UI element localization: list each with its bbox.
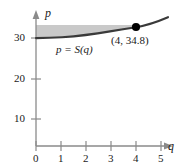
y-tick-label-20: 20	[14, 73, 25, 84]
supply-curve-equation-label: p = S(q)	[56, 44, 93, 55]
x-axis-label: q	[168, 140, 174, 152]
x-tick-label-4: 4	[133, 153, 139, 164]
y-tick-label-10: 10	[14, 113, 25, 124]
x-tick-label-0: 0	[33, 153, 39, 164]
x-tick-label-2: 2	[83, 153, 89, 164]
chart-canvas	[0, 0, 177, 168]
x-tick-label-5: 5	[158, 153, 164, 164]
y-axis-label: p	[45, 7, 51, 19]
x-tick-label-3: 3	[108, 153, 114, 164]
equilibrium-point-label: (4, 34.8)	[111, 35, 149, 46]
equilibrium-point-marker	[132, 23, 140, 31]
y-axis-arrowhead	[33, 10, 40, 19]
supply-curve-figure: p q 30 20 10 0 1 2 3 4 5 p = S(q) (4, 34…	[0, 0, 177, 168]
x-tick-label-1: 1	[58, 153, 64, 164]
y-tick-label-30: 30	[14, 32, 25, 43]
